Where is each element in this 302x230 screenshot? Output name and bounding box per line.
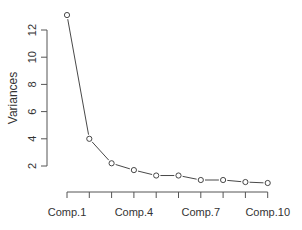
series-segment	[116, 165, 130, 169]
data-point-marker	[154, 173, 159, 178]
data-point-marker	[176, 173, 181, 178]
series-segment	[183, 176, 197, 179]
data-point-marker	[131, 167, 136, 172]
y-axis: 24681012	[26, 24, 47, 169]
y-tick-label: 2	[26, 163, 38, 169]
y-tick-label: 10	[26, 51, 38, 63]
x-axis: Comp.1Comp.4Comp.7Comp.10	[48, 192, 290, 218]
series-segment	[92, 142, 109, 160]
x-tick-label: Comp.1	[48, 206, 87, 218]
data-point-marker	[221, 177, 226, 182]
x-tick-label: Comp.7	[182, 206, 221, 218]
data-point-marker	[64, 12, 69, 17]
series-segment	[138, 171, 152, 174]
data-point-marker	[243, 179, 248, 184]
variance-series	[64, 12, 270, 185]
x-tick-label: Comp.10	[245, 206, 290, 218]
series-segment	[250, 182, 264, 183]
y-tick-label: 12	[26, 24, 38, 36]
x-tick-label: Comp.4	[115, 206, 154, 218]
y-tick-label: 6	[26, 109, 38, 115]
series-segment	[68, 19, 89, 134]
y-tick-label: 8	[26, 81, 38, 87]
data-point-marker	[198, 177, 203, 182]
scree-plot: 24681012 Comp.1Comp.4Comp.7Comp.10 Varia…	[0, 0, 302, 230]
y-tick-label: 4	[26, 136, 38, 142]
data-point-marker	[87, 136, 92, 141]
y-axis-title: Variances	[6, 72, 20, 124]
data-point-marker	[109, 161, 114, 166]
data-point-marker	[265, 180, 270, 185]
series-segment	[227, 180, 241, 181]
